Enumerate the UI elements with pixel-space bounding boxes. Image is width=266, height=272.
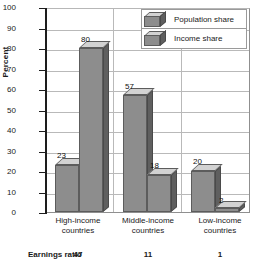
gridline — [45, 50, 249, 51]
bar-value: 23 — [57, 152, 66, 160]
bar-side — [171, 170, 177, 212]
earnings-ratio-value: 1 — [200, 250, 240, 259]
gridline — [45, 71, 249, 72]
category-line-2: countries — [104, 226, 192, 236]
bar-income-high-income[interactable] — [79, 48, 103, 212]
y-tick-label: 40 — [0, 127, 16, 135]
bar-population-middle-income[interactable] — [123, 95, 147, 212]
y-tick-label: 100 — [0, 4, 16, 12]
bar-income-middle-income[interactable] — [147, 175, 171, 212]
category-line-1: Low-income — [180, 216, 260, 226]
legend: Population share Income share — [141, 9, 247, 49]
bar-value: 2 — [219, 197, 223, 205]
earnings-ratio-value: 11 — [128, 250, 168, 259]
bar-population-high-income[interactable] — [55, 165, 79, 212]
category-label-low-income: Low-income countries — [180, 216, 260, 235]
legend-label: Income share — [174, 34, 222, 43]
bar-value: 80 — [81, 36, 90, 44]
y-tick-label: 90 — [0, 25, 16, 33]
legend-cube-icon — [144, 12, 168, 27]
y-tick-label: 80 — [0, 45, 16, 53]
bar-face — [55, 165, 79, 212]
bar-population-low-income[interactable] — [191, 171, 215, 212]
y-tick-label: 60 — [0, 86, 16, 94]
bar-face — [123, 95, 147, 212]
category-line-2: countries — [180, 226, 260, 236]
legend-item-population-share[interactable]: Population share — [142, 10, 246, 29]
bar-income-low-income[interactable] — [215, 208, 239, 212]
category-label-middle-income: Middle-income countries — [104, 216, 192, 235]
y-axis-title: Percent — [1, 32, 10, 92]
bar-face — [79, 48, 103, 212]
y-tick-label: 30 — [0, 148, 16, 156]
y-tick-label: 70 — [0, 66, 16, 74]
legend-item-income-share[interactable]: Income share — [142, 29, 246, 48]
chart-container: Percent 100 90 80 70 60 50 40 30 20 10 0 — [0, 0, 266, 272]
y-tick-label: 50 — [0, 107, 16, 115]
bar-face — [147, 175, 171, 212]
bar-face — [215, 208, 239, 212]
category-line-1: Middle-income — [104, 216, 192, 226]
bar-value: 57 — [125, 83, 134, 91]
y-tick-label: 20 — [0, 168, 16, 176]
y-tick-label: 0 — [0, 209, 16, 217]
bar-face — [191, 171, 215, 212]
y-axis-line — [45, 8, 47, 214]
legend-cube-icon — [144, 31, 168, 46]
y-tick-label: 10 — [0, 189, 16, 197]
bar-value: 20 — [193, 158, 202, 166]
bar-side — [103, 43, 109, 212]
gridline-vertical — [113, 9, 114, 212]
earnings-ratio-value: 47 — [58, 250, 98, 259]
legend-label: Population share — [174, 15, 234, 24]
bar-value: 18 — [150, 162, 159, 170]
